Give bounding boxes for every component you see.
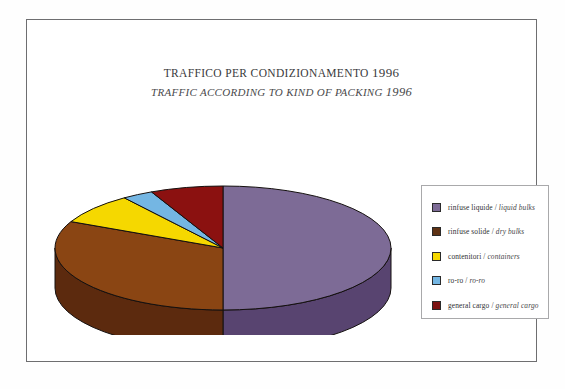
legend-swatch-ro-ro [432, 276, 441, 285]
legend-label-en: containers [487, 252, 519, 261]
chart-title-english: TRAFFIC ACCORDING TO KIND OF PACKING 199… [27, 85, 536, 100]
chart-legend: rinfuse liquide / liquid bulks rinfuse s… [421, 185, 549, 319]
legend-label-it: contenitori [448, 252, 481, 261]
chart-title-english-year: 1996 [386, 85, 412, 99]
pie-chart-svg [45, 170, 405, 335]
legend-item-liquid-bulks: rinfuse liquide / liquid bulks [432, 195, 548, 220]
legend-item-containers: contenitori / containers [432, 244, 548, 269]
legend-swatch-liquid-bulks [432, 203, 441, 212]
legend-swatch-general-cargo [432, 301, 441, 310]
legend-label-ro-ro: ro-ro / ro-ro [448, 276, 485, 285]
legend-label-general-cargo: general cargo / general cargo [448, 301, 539, 310]
chart-title-block: TRAFFICO PER CONDIZIONAMENTO 1996 TRAFFI… [27, 65, 536, 100]
chart-title-italian-year: 1996 [372, 65, 399, 80]
pie-chart [45, 170, 405, 335]
legend-label-liquid-bulks: rinfuse liquide / liquid bulks [448, 203, 535, 212]
legend-label-en: liquid bulks [499, 203, 535, 212]
legend-label-containers: contenitori / containers [448, 252, 520, 261]
legend-sep: / [465, 276, 467, 285]
legend-label-it: ro-ro [448, 276, 463, 285]
chart-title-italian: TRAFFICO PER CONDIZIONAMENTO 1996 [27, 65, 536, 81]
legend-label-it: rinfuse liquide [448, 203, 493, 212]
legend-label-en: general cargo [496, 301, 539, 310]
chart-title-english-text: TRAFFIC ACCORDING TO KIND OF PACKING [151, 86, 383, 98]
scanned-page: TRAFFICO PER CONDIZIONAMENTO 1996 TRAFFI… [0, 0, 565, 389]
legend-item-dry-bulks: rinfuse solide / dry bulks [432, 220, 548, 245]
legend-sep: / [492, 227, 494, 236]
legend-label-en: ro-ro [470, 276, 486, 285]
legend-swatch-containers [432, 252, 441, 261]
legend-label-en: dry bulks [496, 227, 524, 236]
figure-frame: TRAFFICO PER CONDIZIONAMENTO 1996 TRAFFI… [26, 19, 537, 362]
legend-sep: / [491, 301, 493, 310]
legend-item-general-cargo: general cargo / general cargo [432, 293, 548, 318]
legend-sep: / [483, 252, 485, 261]
legend-label-it: general cargo [448, 301, 489, 310]
legend-item-ro-ro: ro-ro / ro-ro [432, 269, 548, 294]
legend-sep: / [495, 203, 497, 212]
legend-label-dry-bulks: rinfuse solide / dry bulks [448, 227, 524, 236]
legend-swatch-dry-bulks [432, 227, 441, 236]
chart-title-italian-text: TRAFFICO PER CONDIZIONAMENTO [164, 67, 369, 79]
legend-label-it: rinfuse solide [448, 227, 490, 236]
